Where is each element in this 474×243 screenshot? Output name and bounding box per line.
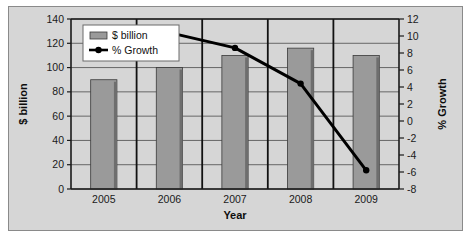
bar-shadow — [376, 57, 379, 189]
y-tick-label-right: -4 — [407, 149, 416, 161]
x-axis-title: Year — [223, 209, 247, 221]
y-tick-label-right: 10 — [407, 30, 419, 42]
bar-shadow — [180, 70, 183, 189]
y-tick-label-right: 0 — [407, 115, 413, 127]
x-tick-label: 2007 — [223, 193, 247, 205]
y-tick-label-right: 8 — [407, 47, 413, 59]
x-tick-label: 2005 — [92, 193, 116, 205]
y-tick-label-right: 2 — [407, 98, 413, 110]
legend: $ billion% Growth — [83, 25, 179, 61]
line-marker[interactable] — [363, 167, 369, 173]
plot-area: 020406080100120140-8-6-4-202468101220052… — [9, 7, 462, 230]
legend-label-growth: % Growth — [112, 44, 158, 56]
y-tick-label-right: 4 — [407, 81, 413, 93]
x-tick-label: 2008 — [289, 193, 313, 205]
bar[interactable] — [91, 80, 117, 189]
y-tick-label-right: 6 — [407, 64, 413, 76]
y-tick-label-right: -2 — [407, 132, 416, 144]
x-tick-label: 2006 — [158, 193, 182, 205]
bar-shadow — [114, 82, 117, 189]
y-tick-label-left: 80 — [52, 85, 64, 97]
bar[interactable] — [222, 55, 248, 189]
y-tick-label-left: 20 — [52, 158, 64, 170]
line-marker[interactable] — [232, 45, 238, 51]
y-axis-title-left: $ billion — [17, 83, 29, 125]
chart-frame: 020406080100120140-8-6-4-202468101220052… — [8, 6, 463, 231]
bar-shadow — [245, 57, 248, 189]
y-tick-label-left: 140 — [46, 13, 64, 25]
bar-group — [156, 68, 182, 189]
bar[interactable] — [287, 48, 313, 189]
bar-group — [91, 80, 117, 189]
y-tick-label-left: 100 — [46, 61, 64, 73]
y-axis-title-right: % Growth — [436, 78, 448, 130]
x-tick-label: 2009 — [355, 193, 379, 205]
y-tick-label-right: 12 — [407, 13, 419, 25]
combo-chart: 020406080100120140-8-6-4-202468101220052… — [9, 7, 464, 232]
y-tick-label-right: -6 — [407, 166, 416, 178]
legend-marker-growth — [95, 47, 101, 53]
y-tick-label-left: 60 — [52, 110, 64, 122]
legend-swatch-bar — [90, 32, 107, 39]
bar[interactable] — [156, 68, 182, 189]
bar-shadow — [311, 50, 314, 189]
y-tick-label-left: 0 — [58, 183, 64, 195]
y-tick-label-left: 40 — [52, 134, 64, 146]
bar-group — [222, 55, 248, 189]
line-marker[interactable] — [297, 80, 303, 86]
legend-label-bar: $ billion — [112, 29, 148, 41]
chart-page: 020406080100120140-8-6-4-202468101220052… — [0, 0, 474, 243]
y-tick-label-right: -8 — [407, 183, 416, 195]
y-tick-label-left: 120 — [46, 37, 64, 49]
bar-group — [287, 48, 313, 189]
